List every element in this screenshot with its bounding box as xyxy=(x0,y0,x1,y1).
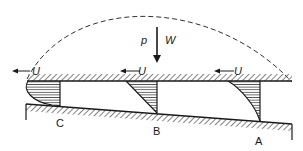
velocity-label-middle: U xyxy=(138,65,146,77)
velocity-label-left: U xyxy=(32,65,40,77)
section-label-a: A xyxy=(255,135,263,147)
section-label-c: C xyxy=(56,117,64,129)
pressure-curve xyxy=(27,16,292,82)
velocity-profile-b xyxy=(126,81,157,113)
velocity-profile-c xyxy=(26,81,60,106)
load-arrow xyxy=(153,27,161,63)
pressure-label: p xyxy=(140,34,147,46)
slider-bearing-diagram: p W U U U xyxy=(0,0,303,151)
velocity-arrow-left: U xyxy=(12,65,40,77)
velocity-label-right: U xyxy=(234,65,242,77)
velocity-profile-a xyxy=(228,81,260,121)
section-label-b: B xyxy=(153,125,160,137)
top-plate xyxy=(27,74,292,81)
load-label: W xyxy=(165,34,177,46)
